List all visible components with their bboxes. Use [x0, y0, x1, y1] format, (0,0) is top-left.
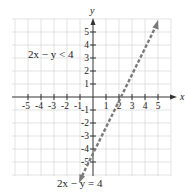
y-axis-label: y — [89, 5, 95, 16]
boundary-equation-label: 2x − y = 4 — [57, 177, 103, 189]
y-tick-label: 3 — [84, 53, 89, 63]
line-arrow-up-icon — [153, 20, 159, 30]
y-tick-label: -2 — [81, 118, 89, 128]
x-axis: x -5 -4 -3 -2 -1 1 2 3 4 5 — [12, 91, 185, 111]
x-tick-label: -4 — [35, 101, 43, 111]
x-tick-label: -2 — [61, 101, 69, 111]
coordinate-plane: x -5 -4 -3 -2 -1 1 2 3 4 5 — [0, 0, 185, 195]
y-tick-label: 5 — [84, 27, 89, 37]
x-tick-label: -3 — [48, 101, 56, 111]
inequality-label: 2x − y < 4 — [28, 48, 74, 60]
x-tick-label: -5 — [22, 101, 30, 111]
y-tick-label: -1 — [81, 105, 89, 115]
y-tick-label: -4 — [81, 144, 89, 154]
x-axis-arrow-icon — [170, 95, 177, 100]
y-tick-label: 1 — [84, 79, 89, 89]
y-tick-label: 2 — [84, 66, 89, 76]
y-tick-label: -3 — [81, 131, 89, 141]
y-tick-label: 4 — [84, 40, 89, 50]
x-tick-label: 1 — [104, 101, 109, 111]
x-tick-label: 5 — [156, 101, 161, 111]
x-tick-label: 4 — [143, 101, 148, 111]
x-tick-label: 3 — [130, 101, 135, 111]
x-axis-label: x — [179, 91, 185, 102]
